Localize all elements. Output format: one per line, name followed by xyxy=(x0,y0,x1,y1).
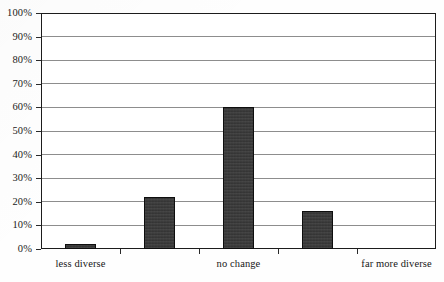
y-tick-label-20: 20% xyxy=(0,196,32,207)
bar-category-4 xyxy=(302,211,333,249)
bar-less-diverse xyxy=(65,244,96,249)
y-tick-label-90: 90% xyxy=(0,31,32,42)
x-tick-mark-3 xyxy=(278,249,279,254)
x-label-no-change: no change xyxy=(199,258,278,269)
y-tick-label-100: 100% xyxy=(0,7,32,18)
y-tick-mark-0 xyxy=(36,249,41,250)
y-tick-label-70: 70% xyxy=(0,78,32,89)
y-tick-label-0: 0% xyxy=(0,243,32,254)
y-tick-label-10: 10% xyxy=(0,219,32,230)
y-tick-label-60: 60% xyxy=(0,101,32,112)
bar-no-change xyxy=(223,107,254,249)
x-label-far-more-diverse: far more diverse xyxy=(357,258,436,269)
x-tick-mark-4 xyxy=(357,249,358,254)
y-tick-label-30: 30% xyxy=(0,172,32,183)
x-label-less-diverse: less diverse xyxy=(41,258,120,269)
y-axis-labels: 100% 90% 80% 70% 60% 50% 40% 30% 20% 10%… xyxy=(0,0,38,282)
y-tick-label-40: 40% xyxy=(0,149,32,160)
bar-category-2 xyxy=(144,197,175,249)
y-tick-label-80: 80% xyxy=(0,54,32,65)
y-tick-label-50: 50% xyxy=(0,125,32,136)
x-tick-mark-2 xyxy=(199,249,200,254)
bar-chart: 100% 90% 80% 70% 60% 50% 40% 30% 20% 10%… xyxy=(0,0,444,282)
bars-layer xyxy=(41,13,436,249)
x-tick-mark-1 xyxy=(120,249,121,254)
